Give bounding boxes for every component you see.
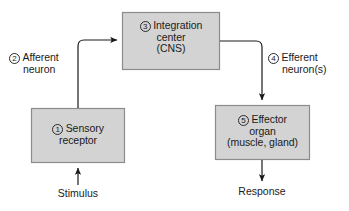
reflex-arc-diagram: 1Sensory receptor 3Integration center (C… [0,0,349,211]
label-effector-organ-line-1: Effector [251,113,287,125]
label-integration-center: 3Integration center (CNS) [122,20,220,55]
label-integration-center-line-1: Integration [153,19,202,31]
number-badge-2: 2 [9,53,20,64]
label-afferent-neuron-line-2: neuron [23,64,59,76]
number-badge-5: 5 [238,115,249,126]
label-response: Response [222,186,302,198]
label-efferent-neuron-line-1: Efferent [282,51,318,63]
number-badge-1: 1 [52,124,63,135]
label-stimulus: Stimulus [38,188,118,200]
connector-efferent [220,41,262,100]
label-sensory-receptor: 1Sensory receptor [31,123,125,146]
number-badge-3: 3 [140,21,151,32]
label-sensory-receptor-line-2: receptor [31,135,125,147]
label-effector-organ: 5Effector organ (muscle, gland) [215,114,310,149]
label-sensory-receptor-line-1: Sensory [66,122,104,134]
number-badge-4: 4 [268,53,279,64]
label-afferent-neuron: 2Afferent neuron [9,52,59,75]
label-efferent-neuron: 4Efferent neuron(s) [268,52,327,75]
label-efferent-neuron-line-2: neuron(s) [282,64,327,76]
label-effector-organ-line-3: (muscle, gland) [215,137,310,149]
label-afferent-neuron-line-1: Afferent [23,51,59,63]
connector-afferent [78,40,117,108]
label-integration-center-line-3: (CNS) [122,43,220,55]
